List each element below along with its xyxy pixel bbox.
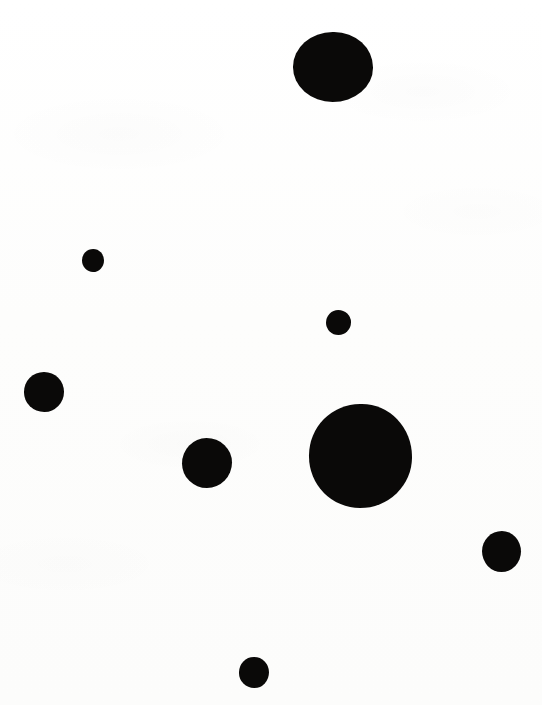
paper-texture: [0, 0, 542, 705]
dot-center-largest: [309, 404, 412, 508]
dot-right-medium: [482, 531, 521, 572]
dot-pattern-canvas: [0, 0, 542, 705]
dot-upper-left-small: [82, 249, 104, 272]
dot-middle-small: [326, 310, 351, 335]
dot-top-large: [293, 32, 373, 102]
dot-bottom-small: [239, 657, 269, 688]
dot-mid-left-medium: [182, 438, 232, 488]
dot-left-medium: [24, 372, 64, 412]
